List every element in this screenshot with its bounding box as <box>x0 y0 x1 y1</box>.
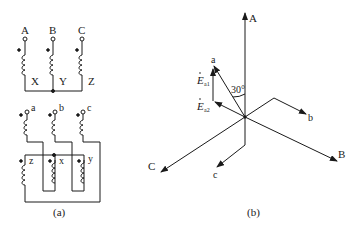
end-label-z: z <box>29 155 34 166</box>
label-Ea1: E a1 <box>196 72 210 87</box>
phasor-label-A: A <box>249 12 257 24</box>
phasor-label-b: b <box>308 112 313 123</box>
polarity-dot-icon <box>78 160 81 163</box>
angle-label: 30° <box>231 84 245 95</box>
figure-a-labels: A B C X Y Z <box>21 24 95 87</box>
end-label-Z: Z <box>88 75 95 87</box>
polarity-dot-icon <box>77 114 80 117</box>
primary-winding-b <box>47 37 55 91</box>
phasor-B-arrow <box>245 117 337 161</box>
polarity-dot-icon <box>20 160 23 163</box>
figure-canvas: A B C X Y Z a b c z x y (a) A B C a b c … <box>0 0 362 235</box>
phasor-C-arrow <box>161 117 245 172</box>
polarity-dot-icon <box>47 49 50 52</box>
end-label-Y: Y <box>59 75 67 87</box>
phasor-c-arrow <box>217 117 245 167</box>
phasor-label-B: B <box>338 148 345 160</box>
caption-b: (b) <box>247 206 260 219</box>
end-label-y: y <box>88 153 93 164</box>
terminal-label-a: a <box>31 102 36 113</box>
end-label-X: X <box>31 75 39 87</box>
caption-a: (a) <box>53 206 66 219</box>
dot-accent-icon <box>199 98 201 100</box>
terminal-label-b: b <box>59 102 64 113</box>
polarity-dot-icon <box>49 114 52 117</box>
primary-winding-a <box>18 37 27 91</box>
terminal-label-C: C <box>78 24 85 36</box>
svg-text:a2: a2 <box>204 107 210 113</box>
polarity-dot-icon <box>76 49 79 52</box>
svg-text:E: E <box>196 100 204 112</box>
origin-dot-icon <box>244 116 246 118</box>
polarity-dot-icon <box>49 160 52 163</box>
figure-a-connection-diagram <box>18 37 100 202</box>
secondary-winding-y <box>78 155 84 183</box>
phasor-label-C: C <box>148 160 155 172</box>
svg-text:a1: a1 <box>204 81 210 87</box>
svg-text:E: E <box>196 74 204 86</box>
terminal-label-B: B <box>49 24 56 36</box>
dot-accent-icon <box>199 72 201 74</box>
label-Ea2: E a2 <box>196 98 210 113</box>
phasor-label-a: a <box>211 54 216 65</box>
phasor-b-arrow <box>245 98 306 117</box>
secondary-winding-z <box>20 155 25 185</box>
secondary-winding-a <box>20 110 55 191</box>
junction-dot-icon <box>52 90 55 93</box>
figure-b-phasor-diagram <box>161 13 337 172</box>
terminal-label-A: A <box>21 24 29 36</box>
primary-winding-c <box>76 37 84 91</box>
terminal-label-c: c <box>87 102 92 113</box>
phasor-label-c: c <box>213 169 218 180</box>
secondary-winding-x <box>49 155 55 183</box>
polarity-dot-icon <box>20 114 23 117</box>
end-label-x: x <box>59 155 64 166</box>
polarity-dot-icon <box>18 49 21 52</box>
